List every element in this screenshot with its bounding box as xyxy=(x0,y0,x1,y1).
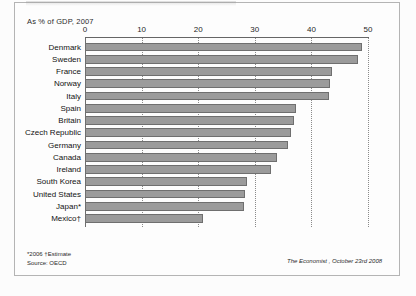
bar-row: Britain xyxy=(0,115,416,127)
category-label-japan: Japan* xyxy=(56,201,81,213)
bar xyxy=(85,214,203,223)
x-tick-label-20: 20 xyxy=(194,25,203,34)
category-label-spain: Spain xyxy=(61,103,81,115)
publication-credit: The Economist , October 23rd 2008 xyxy=(287,258,382,264)
category-label-denmark: Denmark xyxy=(49,42,81,54)
bar xyxy=(85,43,362,52)
x-tick-label-30: 30 xyxy=(250,25,259,34)
chart-figure: As % of GDP, 2007 01020304050 DenmarkSwe… xyxy=(0,0,416,296)
bar-row: Norway xyxy=(0,78,416,90)
bar xyxy=(85,190,245,199)
bar xyxy=(85,141,288,150)
category-label-britain: Britain xyxy=(58,115,81,127)
bar-row: Germany xyxy=(0,140,416,152)
bar-row: Mexico† xyxy=(0,213,416,225)
category-label-norway: Norway xyxy=(54,78,81,90)
bar-row: Ireland xyxy=(0,164,416,176)
category-label-italy: Italy xyxy=(66,91,81,103)
bar xyxy=(85,153,277,162)
category-label-germany: Germany xyxy=(48,140,81,152)
category-label-sweden: Sweden xyxy=(52,54,81,66)
chart-footnotes: *2006 †Estimate Source: OECD xyxy=(27,250,71,267)
bar-row: Japan* xyxy=(0,201,416,213)
bar-row: Denmark xyxy=(0,42,416,54)
bar xyxy=(85,165,271,174)
bar-row: United States xyxy=(0,189,416,201)
category-label-united-states: United States xyxy=(33,189,81,201)
footnote-source: Source: OECD xyxy=(27,259,71,268)
bar xyxy=(85,92,329,101)
bar-row: South Korea xyxy=(0,176,416,188)
category-label-canada: Canada xyxy=(53,152,81,164)
category-label-mexico: Mexico† xyxy=(51,213,81,225)
clipped-title-strip xyxy=(26,1,236,6)
x-axis-line xyxy=(85,37,369,38)
footnote-estimate: *2006 †Estimate xyxy=(27,250,71,259)
x-tick-label-40: 40 xyxy=(307,25,316,34)
category-label-south-korea: South Korea xyxy=(37,176,81,188)
bar-row: France xyxy=(0,66,416,78)
bar-row: Spain xyxy=(0,103,416,115)
category-label-ireland: Ireland xyxy=(57,164,81,176)
bar xyxy=(85,104,296,113)
x-tick-label-10: 10 xyxy=(137,25,146,34)
bar xyxy=(85,79,330,88)
bar-row: Canada xyxy=(0,152,416,164)
bar-row: Czech Republic xyxy=(0,127,416,139)
bar xyxy=(85,177,247,186)
bar-row: Sweden xyxy=(0,54,416,66)
bar-row: Italy xyxy=(0,91,416,103)
bar xyxy=(85,67,332,76)
x-tick-label-0: 0 xyxy=(83,25,87,34)
x-tick-label-50: 50 xyxy=(364,25,373,34)
bar xyxy=(85,55,358,64)
bar xyxy=(85,128,291,137)
category-label-czech-republic: Czech Republic xyxy=(25,127,81,139)
category-label-france: France xyxy=(56,66,81,78)
bar xyxy=(85,202,244,211)
bar xyxy=(85,116,294,125)
